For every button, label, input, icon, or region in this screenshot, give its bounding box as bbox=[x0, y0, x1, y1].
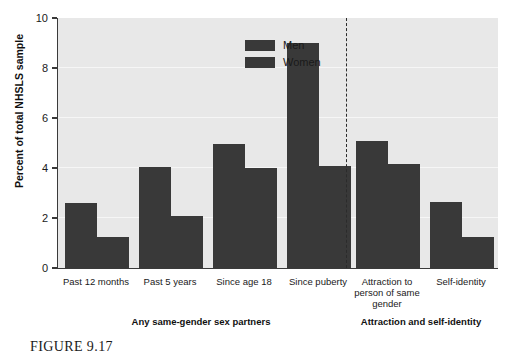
y-tick-label-4: 4 bbox=[28, 163, 48, 174]
bar-men-0 bbox=[65, 203, 97, 268]
bar-women-1 bbox=[171, 216, 203, 269]
bar-men-4 bbox=[356, 141, 388, 269]
figure-9-17: Percent of total NHSLS sample 0246810 Me… bbox=[0, 0, 505, 357]
bar-men-5 bbox=[430, 202, 462, 268]
legend-swatch-men bbox=[245, 40, 275, 51]
legend-label-men: Men bbox=[283, 40, 304, 51]
y-tick-label-0: 0 bbox=[28, 263, 48, 274]
x-label-5: Self-identity bbox=[415, 276, 505, 287]
y-tick-label-10: 10 bbox=[28, 13, 48, 24]
legend-item-men: Men bbox=[245, 40, 321, 51]
legend-swatch-women bbox=[245, 57, 275, 68]
supergroup-label-attraction: Attraction and self-identity bbox=[345, 316, 497, 327]
bar-women-0 bbox=[97, 237, 129, 268]
supergroup-label-sex-partners: Any same-gender sex partners bbox=[57, 316, 345, 327]
y-tick-label-8: 8 bbox=[28, 63, 48, 74]
bar-women-4 bbox=[388, 164, 420, 268]
y-tick-label-2: 2 bbox=[28, 213, 48, 224]
legend-item-women: Women bbox=[245, 57, 321, 68]
plot-area: Men Women bbox=[57, 18, 498, 269]
bar-men-3 bbox=[287, 43, 319, 268]
legend-label-women: Women bbox=[283, 57, 321, 68]
gridline-6 bbox=[58, 117, 498, 118]
bar-women-5 bbox=[462, 237, 494, 268]
y-axis-title: Percent of total NHSLS sample bbox=[13, 0, 25, 226]
bar-women-2 bbox=[245, 168, 277, 268]
y-tick-label-6: 6 bbox=[28, 113, 48, 124]
figure-caption: FIGURE 9.17 bbox=[30, 339, 113, 355]
legend: Men Women bbox=[245, 40, 321, 74]
gridline-4 bbox=[58, 167, 498, 168]
bar-men-1 bbox=[139, 167, 171, 268]
bar-men-2 bbox=[213, 144, 245, 268]
group-divider-line bbox=[346, 18, 347, 268]
